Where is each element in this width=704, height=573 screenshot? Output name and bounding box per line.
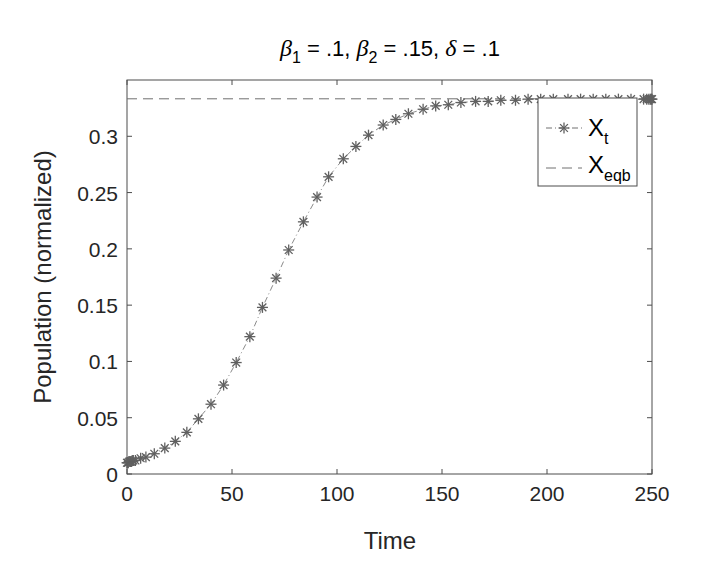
asterisk-marker-icon bbox=[181, 427, 192, 438]
asterisk-marker-icon bbox=[378, 120, 389, 131]
asterisk-marker-icon bbox=[206, 399, 217, 410]
asterisk-marker-icon bbox=[483, 96, 494, 107]
asterisk-marker-icon bbox=[170, 436, 181, 447]
x-axis-label: Time bbox=[364, 527, 416, 554]
asterisk-marker-icon bbox=[647, 94, 658, 105]
y-tick-label: 0.25 bbox=[77, 182, 118, 205]
chart-title: β1 = .1, β2 = .15, δ = .1 bbox=[279, 35, 500, 66]
legend: Xt Xeqb bbox=[538, 98, 637, 186]
asterisk-marker-icon bbox=[283, 244, 294, 255]
x-tick-label: 0 bbox=[121, 482, 133, 505]
asterisk-marker-icon bbox=[390, 114, 401, 125]
y-tick-label: 0.2 bbox=[89, 238, 118, 261]
asterisk-marker-icon bbox=[244, 331, 255, 342]
y-axis-label: Population (normalized) bbox=[29, 150, 56, 403]
asterisk-marker-icon bbox=[523, 94, 534, 105]
asterisk-marker-icon bbox=[323, 171, 334, 182]
asterisk-marker-icon bbox=[312, 192, 323, 203]
asterisk-marker-icon bbox=[218, 380, 229, 391]
asterisk-marker-icon bbox=[159, 443, 170, 454]
y-tick-label: 0.05 bbox=[77, 407, 118, 430]
asterisk-marker-icon bbox=[231, 357, 242, 368]
asterisk-marker-icon bbox=[455, 97, 466, 108]
asterisk-marker-icon bbox=[403, 108, 414, 119]
asterisk-marker-icon bbox=[338, 153, 349, 164]
asterisk-marker-icon bbox=[149, 448, 160, 459]
asterisk-marker-icon bbox=[559, 123, 570, 134]
asterisk-marker-icon bbox=[495, 95, 506, 106]
x-tick-label: 150 bbox=[424, 482, 459, 505]
asterisk-marker-icon bbox=[298, 216, 309, 227]
asterisk-marker-icon bbox=[559, 123, 570, 134]
asterisk-marker-icon bbox=[470, 96, 481, 107]
x-tick-label: 250 bbox=[634, 482, 669, 505]
y-tick-label: 0 bbox=[106, 463, 118, 486]
asterisk-marker-icon bbox=[363, 130, 374, 141]
chart-figure: β1 = .1, β2 = .15, δ = .1 05010015020025… bbox=[0, 0, 704, 573]
asterisk-marker-icon bbox=[443, 99, 454, 110]
y-tick-label: 0.3 bbox=[89, 125, 118, 148]
asterisk-marker-icon bbox=[257, 302, 268, 313]
asterisk-marker-icon bbox=[430, 100, 441, 111]
y-tick-label: 0.15 bbox=[77, 294, 118, 317]
x-tick-label: 100 bbox=[319, 482, 354, 505]
x-tick-label: 50 bbox=[220, 482, 243, 505]
asterisk-marker-icon bbox=[193, 413, 204, 424]
asterisk-marker-icon bbox=[350, 141, 361, 152]
asterisk-marker-icon bbox=[510, 95, 521, 106]
x-tick-label: 200 bbox=[529, 482, 564, 505]
asterisk-marker-icon bbox=[271, 273, 282, 284]
asterisk-marker-icon bbox=[418, 104, 429, 115]
y-tick-label: 0.1 bbox=[89, 350, 118, 373]
